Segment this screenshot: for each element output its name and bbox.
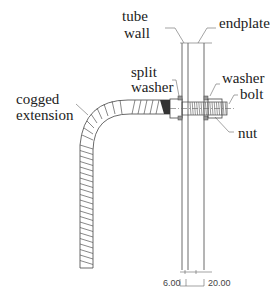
rib-line bbox=[132, 100, 135, 114]
cogged-extension-bar bbox=[80, 100, 170, 268]
rib-line bbox=[138, 100, 141, 114]
washer-top bbox=[204, 96, 208, 100]
rib-line bbox=[156, 100, 159, 114]
thread-line bbox=[201, 102, 202, 115]
rib-line bbox=[80, 228, 93, 232]
rib-line bbox=[80, 184, 93, 188]
rib-line bbox=[91, 114, 97, 123]
tube-wall-leader bbox=[165, 28, 184, 43]
bar-outer-edge bbox=[80, 100, 170, 268]
cogged-extension-label-1: cogged bbox=[16, 91, 60, 107]
rib-line bbox=[80, 211, 93, 215]
split-washer-top bbox=[178, 96, 182, 100]
thread-line bbox=[210, 102, 211, 115]
nut-leader bbox=[215, 117, 234, 132]
bolt-label: bolt bbox=[240, 86, 264, 102]
rib-line bbox=[80, 200, 93, 204]
rib-line bbox=[120, 100, 122, 114]
connection-diagram: tube wall endplate split washer washer b… bbox=[0, 0, 279, 301]
cogged-extension-label-2: extension bbox=[16, 107, 74, 123]
rib-line bbox=[80, 156, 93, 160]
rib-line bbox=[97, 108, 102, 119]
rib-line bbox=[80, 233, 93, 237]
split-washer-label-1: split bbox=[131, 64, 158, 80]
rib-line bbox=[80, 222, 93, 226]
endplate-label: endplate bbox=[219, 15, 270, 31]
rib-line bbox=[82, 135, 93, 140]
bolt-leader bbox=[229, 95, 238, 104]
weld bbox=[160, 100, 170, 114]
tube-wall-dimension: 6.00 bbox=[163, 278, 181, 288]
thread-line bbox=[212, 102, 213, 115]
tube-wall-endplate bbox=[180, 43, 212, 270]
rib-line bbox=[80, 261, 93, 265]
rib-line bbox=[80, 195, 93, 199]
rib-line bbox=[80, 151, 93, 155]
rib-line bbox=[80, 250, 93, 254]
rib-line bbox=[80, 217, 93, 221]
thread-line bbox=[199, 102, 200, 115]
rib-line bbox=[80, 255, 93, 259]
bar-inner-edge bbox=[93, 114, 170, 268]
bar-ribs bbox=[80, 100, 159, 265]
rib-line bbox=[80, 162, 93, 166]
rib-line bbox=[87, 121, 94, 128]
washer-label: washer bbox=[222, 70, 264, 86]
dim-bracket bbox=[180, 279, 204, 286]
rib-line bbox=[80, 145, 93, 149]
rib-line bbox=[144, 100, 147, 114]
split-washer-bottom bbox=[178, 116, 182, 120]
rib-line bbox=[84, 128, 93, 134]
endplate-dimension: 20.00 bbox=[208, 278, 231, 288]
rib-line bbox=[80, 178, 93, 182]
tube-wall-label-2: wall bbox=[124, 25, 150, 41]
rib-line bbox=[112, 101, 115, 114]
rib-line bbox=[80, 173, 93, 177]
rib-line bbox=[80, 239, 93, 243]
thread-line bbox=[223, 102, 224, 115]
washer-bottom bbox=[204, 116, 208, 120]
rib-line bbox=[80, 167, 93, 171]
dimension-group: 6.00 20.00 bbox=[163, 270, 231, 288]
cogged-extension-leader bbox=[76, 104, 88, 115]
tube-wall-label-1: tube bbox=[122, 8, 148, 24]
rib-line bbox=[80, 189, 93, 193]
nut-label: nut bbox=[238, 125, 258, 141]
washer-leader bbox=[210, 84, 220, 96]
thread-line bbox=[190, 102, 191, 115]
rib-line bbox=[104, 104, 108, 116]
rib-line bbox=[80, 244, 93, 248]
split-washer-label-2: washer bbox=[131, 79, 173, 95]
bolt-assembly bbox=[170, 96, 236, 120]
rib-line bbox=[80, 206, 93, 210]
endplate-leader bbox=[198, 28, 216, 43]
rib-line bbox=[150, 100, 153, 114]
